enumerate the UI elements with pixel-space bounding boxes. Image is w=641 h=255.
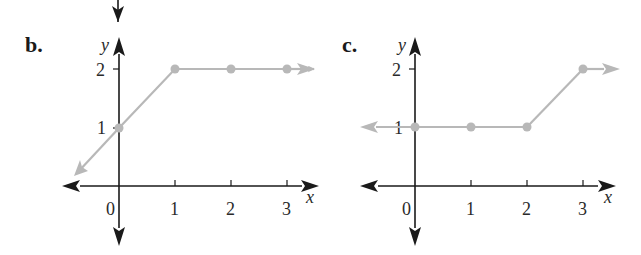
- x-ticks: [175, 180, 287, 186]
- x-axis-label: x: [603, 187, 612, 207]
- x-tick-label: 3: [282, 199, 291, 219]
- data-point: [411, 123, 420, 132]
- data-point: [227, 65, 236, 74]
- data-point: [283, 65, 292, 74]
- data-point: [467, 123, 476, 132]
- figure: b. 0 1 2 3 2 1 x y: [0, 0, 641, 255]
- y-axis-label: y: [396, 35, 406, 55]
- data-points: [411, 65, 588, 132]
- y-axis-label: y: [99, 35, 109, 55]
- x-tick-label: 1: [170, 199, 179, 219]
- graph-b: b. 0 1 2 3 2 1 x y: [25, 32, 319, 246]
- x-ticks: [471, 180, 583, 186]
- series-line: [74, 63, 315, 176]
- y-tick-label: 2: [392, 60, 401, 80]
- arrow-left-icon: [360, 180, 378, 192]
- panel-label-c: c.: [342, 32, 357, 57]
- x-axis-label: x: [305, 187, 314, 207]
- data-point: [579, 65, 588, 74]
- x-axis: [360, 180, 616, 192]
- x-tick-label: 0: [106, 199, 115, 219]
- x-tick-label: 0: [402, 199, 411, 219]
- y-ticks: [113, 69, 119, 128]
- x-tick-label: 2: [522, 199, 531, 219]
- y-ticks: [409, 69, 415, 127]
- arrow-right-icon: [602, 63, 620, 75]
- x-tick-label: 2: [226, 199, 235, 219]
- data-point: [523, 123, 532, 132]
- arrow-down-icon: [112, 0, 124, 22]
- data-point: [171, 65, 180, 74]
- y-tick-label: 1: [97, 118, 106, 138]
- panel-label-b: b.: [25, 32, 43, 57]
- arrow-left-icon: [62, 180, 80, 192]
- x-tick-label: 1: [466, 199, 475, 219]
- arrow-down-icon: [409, 227, 421, 246]
- arrow-left-icon: [360, 121, 378, 133]
- x-axis: [62, 180, 319, 192]
- data-point: [115, 124, 124, 133]
- arrow-up-icon: [409, 37, 421, 56]
- arrow-up-icon: [113, 37, 125, 56]
- arrow-down-icon: [113, 227, 125, 246]
- y-tick-label: 2: [96, 60, 105, 80]
- graph-c: c. 0 1 2 3 2 1 x y: [342, 32, 620, 246]
- data-points: [115, 65, 292, 133]
- x-tick-label: 3: [578, 199, 587, 219]
